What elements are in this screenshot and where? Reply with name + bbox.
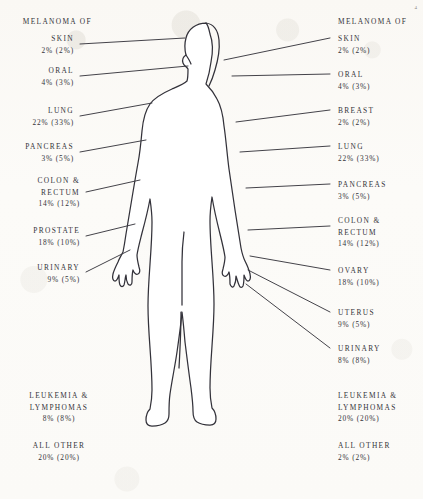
left-footer-leukemia-lymphomas: LEUKEMIA & LYMPHOMAS 8% (8%) (0, 390, 118, 425)
left-item-oral-pct: 4% (3%) (0, 77, 74, 89)
left-footer-leukemia-line2: LYMPHOMAS (0, 402, 118, 414)
right-item-ovary-name: OVARY (338, 265, 380, 277)
left-item-pancreas-pct: 3% (5%) (0, 153, 74, 165)
right-item-breast-pct: 2% (2%) (338, 117, 374, 129)
right-item-colon-rectum: COLON & RECTUM 14% (12%) (338, 215, 381, 250)
cancer-incidence-diagram: 4 (0, 0, 423, 499)
right-item-oral-pct: 4% (3%) (338, 81, 370, 93)
left-heading-melanoma-of: MELANOMA OF (0, 16, 92, 28)
left-item-colon-rectum: COLON & RECTUM 14% (12%) (0, 175, 80, 210)
left-item-skin-name: SKIN (0, 33, 74, 45)
right-item-oral-name: ORAL (338, 69, 370, 81)
left-item-skin: SKIN 2% (2%) (0, 33, 74, 56)
right-footer-all-other: ALL OTHER 2% (2%) (338, 440, 391, 463)
right-item-pancreas-name: PANCREAS (338, 179, 387, 191)
right-item-urinary: URINARY 8% (8%) (338, 343, 381, 366)
left-item-colon-rectum-line2: RECTUM (0, 187, 80, 199)
left-footer-all-other: ALL OTHER 20% (20%) (0, 440, 118, 463)
right-item-colon-rectum-line1: COLON & (338, 215, 381, 227)
right-item-uterus: UTERUS 9% (5%) (338, 307, 375, 330)
left-item-oral-name: ORAL (0, 65, 74, 77)
right-item-skin: SKIN 2% (2%) (338, 33, 370, 56)
leader-left-lung (80, 103, 152, 116)
right-footer-all-other-pct: 2% (2%) (338, 452, 391, 464)
leader-right-breast (236, 110, 330, 122)
leader-right-uterus (248, 270, 330, 312)
right-item-uterus-name: UTERUS (338, 307, 375, 319)
right-item-uterus-pct: 9% (5%) (338, 319, 375, 331)
right-item-skin-name: SKIN (338, 33, 370, 45)
left-footer-leukemia-line1: LEUKEMIA & (0, 390, 118, 402)
right-item-breast-name: BREAST (338, 105, 374, 117)
leader-right-colon-rectum (248, 226, 330, 230)
right-item-lung-name: LUNG (338, 141, 380, 153)
left-item-prostate-name: PROSTATE (0, 225, 80, 237)
leader-left-pancreas (80, 140, 146, 152)
left-item-urinary-pct: 9% (5%) (0, 274, 80, 286)
leader-right-ovary (250, 256, 330, 270)
right-item-lung: LUNG 22% (33%) (338, 141, 380, 164)
leader-right-skin (224, 38, 330, 60)
left-item-pancreas: PANCREAS 3% (5%) (0, 141, 74, 164)
leader-right-pancreas (246, 184, 330, 188)
right-footer-all-other-line1: ALL OTHER (338, 440, 391, 452)
right-item-pancreas: PANCREAS 3% (5%) (338, 179, 387, 202)
left-item-urinary: URINARY 9% (5%) (0, 262, 80, 285)
left-item-colon-rectum-line1: COLON & (0, 175, 80, 187)
right-item-skin-pct: 2% (2%) (338, 45, 370, 57)
right-item-colon-rectum-line2: RECTUM (338, 227, 381, 239)
leader-left-colon-rectum (86, 180, 140, 192)
left-item-lung-name: LUNG (0, 105, 74, 117)
left-item-lung-pct: 22% (33%) (0, 117, 74, 129)
right-footer-leukemia-line1: LEUKEMIA & (338, 390, 397, 402)
left-item-pancreas-name: PANCREAS (0, 141, 74, 153)
left-item-urinary-name: URINARY (0, 262, 80, 274)
right-footer-leukemia-pct: 20% (20%) (338, 413, 397, 425)
right-item-ovary: OVARY 18% (10%) (338, 265, 380, 288)
right-item-colon-rectum-pct: 14% (12%) (338, 238, 381, 250)
leader-left-oral (80, 66, 188, 76)
right-item-breast: BREAST 2% (2%) (338, 105, 374, 128)
left-item-prostate: PROSTATE 18% (10%) (0, 225, 80, 248)
right-item-urinary-name: URINARY (338, 343, 381, 355)
right-footer-leukemia-lymphomas: LEUKEMIA & LYMPHOMAS 20% (20%) (338, 390, 397, 425)
leader-right-urinary (246, 284, 330, 348)
left-item-skin-pct: 2% (2%) (0, 45, 74, 57)
leader-right-oral (232, 74, 330, 76)
right-item-pancreas-pct: 3% (5%) (338, 191, 387, 203)
leader-left-skin (80, 38, 185, 44)
left-footer-leukemia-pct: 8% (8%) (0, 413, 118, 425)
left-footer-all-other-pct: 20% (20%) (0, 452, 118, 464)
right-item-lung-pct: 22% (33%) (338, 153, 380, 165)
right-footer-leukemia-line2: LYMPHOMAS (338, 402, 397, 414)
left-item-oral: ORAL 4% (3%) (0, 65, 74, 88)
left-item-prostate-pct: 18% (10%) (0, 237, 80, 249)
right-item-ovary-pct: 18% (10%) (338, 277, 380, 289)
right-heading-melanoma-of: MELANOMA OF (338, 16, 407, 28)
right-item-oral: ORAL 4% (3%) (338, 69, 370, 92)
right-item-urinary-pct: 8% (8%) (338, 355, 381, 367)
left-item-colon-rectum-pct: 14% (12%) (0, 198, 80, 210)
leader-left-prostate (86, 224, 135, 236)
leader-right-lung (240, 146, 330, 152)
left-footer-all-other-line1: ALL OTHER (0, 440, 118, 452)
left-item-lung: LUNG 22% (33%) (0, 105, 74, 128)
leader-left-urinary (86, 250, 130, 272)
